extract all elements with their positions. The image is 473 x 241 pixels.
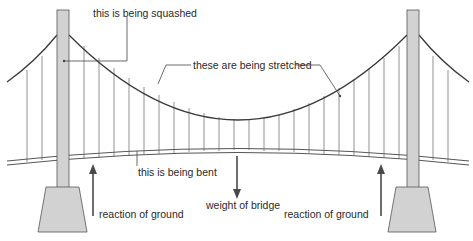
left-pier bbox=[38, 187, 87, 232]
label-reaction-right: reaction of ground bbox=[284, 208, 369, 220]
right-side-cable bbox=[419, 35, 469, 82]
leader-lines bbox=[63, 17, 341, 166]
right-pier bbox=[388, 187, 436, 232]
label-weight: weight of bridge bbox=[205, 199, 280, 211]
label-squashed: this is being squashed bbox=[93, 7, 197, 19]
reaction-left-arrow bbox=[89, 164, 97, 216]
label-bent: this is being bent bbox=[138, 166, 217, 178]
bridge-deck bbox=[7, 149, 469, 166]
reaction-right-arrow bbox=[377, 164, 385, 216]
right-tower bbox=[388, 10, 436, 232]
label-reaction-left: reaction of ground bbox=[99, 208, 184, 220]
label-stretched: these are being stretched bbox=[193, 59, 312, 71]
main-cables bbox=[7, 35, 469, 120]
main-span-cable bbox=[69, 35, 407, 120]
suspension-bridge-diagram: this is being squashed these are being s… bbox=[0, 0, 473, 241]
weight-arrow bbox=[233, 156, 241, 199]
left-tower bbox=[38, 10, 87, 232]
left-side-cable bbox=[7, 35, 57, 82]
